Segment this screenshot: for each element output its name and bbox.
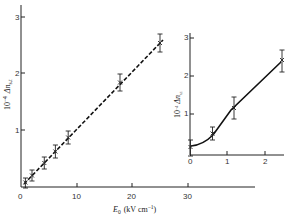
svg-text:30: 30 bbox=[183, 192, 192, 201]
svg-text:0: 0 bbox=[18, 192, 23, 201]
data-point bbox=[30, 170, 35, 181]
data-point bbox=[280, 50, 285, 72]
main-y-axis-label: 10−4Δns,t bbox=[2, 79, 13, 110]
inset-data-points bbox=[188, 50, 285, 156]
svg-text:1: 1 bbox=[15, 126, 20, 135]
svg-text:3: 3 bbox=[184, 33, 189, 42]
svg-text:20: 20 bbox=[127, 192, 136, 201]
inset-axes bbox=[190, 33, 284, 155]
svg-text:1: 1 bbox=[184, 109, 189, 118]
svg-text:1: 1 bbox=[225, 157, 230, 166]
svg-text:3: 3 bbox=[15, 13, 20, 22]
data-point bbox=[158, 34, 163, 52]
svg-text:2: 2 bbox=[184, 71, 189, 80]
main-y-tick-labels: 3 2 1 bbox=[15, 13, 20, 135]
main-data-points bbox=[23, 34, 163, 188]
main-x-axis-label: E0(kV cm−1) bbox=[112, 204, 157, 215]
main-x-tick-labels: 0 10 20 30 bbox=[18, 192, 192, 201]
figure: 3 2 1 0 10 20 30 E0(kV cm−1) 10−4Δns,t bbox=[0, 0, 287, 218]
svg-text:10: 10 bbox=[72, 192, 81, 201]
data-point bbox=[188, 140, 193, 156]
svg-text:0: 0 bbox=[188, 157, 193, 166]
data-point bbox=[53, 145, 58, 158]
inset-y-tick-labels: 3 2 1 bbox=[184, 33, 189, 118]
data-point bbox=[66, 131, 71, 144]
data-point bbox=[42, 157, 47, 169]
inset-y-axis-label: 10−4Δns,t bbox=[173, 90, 184, 118]
inset-x-tick-labels: 0 1 2 bbox=[188, 157, 268, 166]
svg-text:2: 2 bbox=[263, 157, 268, 166]
inset-fit-curve bbox=[191, 62, 281, 146]
svg-text:2: 2 bbox=[15, 69, 20, 78]
main-axes bbox=[21, 5, 255, 187]
